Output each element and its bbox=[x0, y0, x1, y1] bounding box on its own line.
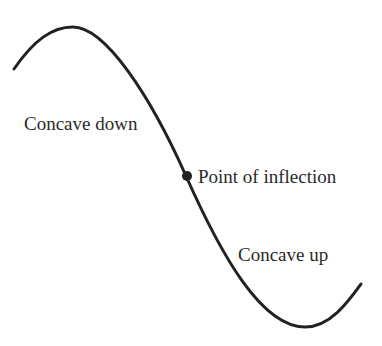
inflection-diagram: Concave down Point of inflection Concave… bbox=[0, 0, 382, 346]
concave-up-label: Concave up bbox=[238, 245, 328, 264]
concave-down-label: Concave down bbox=[24, 114, 137, 133]
inflection-label: Point of inflection bbox=[198, 167, 336, 186]
inflection-point-marker bbox=[182, 171, 192, 181]
